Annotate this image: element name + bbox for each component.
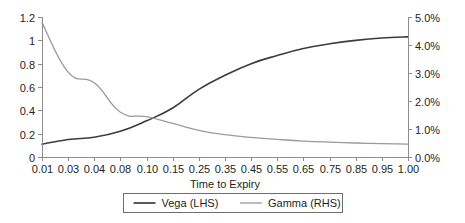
right-axis-tick-label: 0.0%	[415, 152, 440, 164]
legend-label: Gamma (RHS)	[268, 197, 341, 209]
x-axis-tick-label: 0.95	[372, 163, 393, 175]
x-axis-tick-label: 0.85	[346, 163, 367, 175]
x-axis-tick-label: 0.15	[163, 163, 184, 175]
right-axis-tick-labels: 0.0%1.0%2.0%3.0%4.0%5.0%	[415, 12, 440, 164]
x-axis-title: Time to Expiry	[190, 178, 260, 190]
right-axis-tick-label: 5.0%	[415, 12, 440, 24]
legend-label: Vega (LHS)	[162, 197, 219, 209]
right-axis-tick-label: 4.0%	[415, 40, 440, 52]
x-axis-tick-label: 0.65	[293, 163, 314, 175]
x-axis-tick-label: 0.03	[58, 163, 79, 175]
right-axis-tick-label: 2.0%	[415, 96, 440, 108]
series-line-vega	[42, 37, 408, 144]
line-chart: 00.20.40.60.811.2 0.0%1.0%2.0%3.0%4.0%5.…	[0, 0, 465, 223]
x-axis-tick-label: 0.45	[241, 163, 262, 175]
x-axis-tick-label: 0.35	[215, 163, 236, 175]
left-axis-ticks	[38, 18, 42, 158]
left-axis-tick-label: 1.2	[20, 12, 35, 24]
x-axis-tick-label: 0.25	[189, 163, 210, 175]
x-axis-tick-label: 0.75	[320, 163, 341, 175]
right-axis-tick-label: 1.0%	[415, 124, 440, 136]
x-axis-tick-label: 0.08	[110, 163, 131, 175]
chart-figure: 00.20.40.60.811.2 0.0%1.0%2.0%3.0%4.0%5.…	[0, 0, 465, 223]
left-axis-tick-label: 0.6	[20, 82, 35, 94]
left-axis-tick-label: 0.4	[20, 105, 35, 117]
x-axis-tick-label: 0.01	[32, 163, 53, 175]
x-axis-tick-label: 0.04	[84, 163, 105, 175]
left-axis-tick-label: 0.2	[20, 129, 35, 141]
left-axis-tick-labels: 00.20.40.60.811.2	[20, 12, 35, 164]
left-axis-tick-label: 0	[29, 152, 35, 164]
chart-legend: Vega (LHS)Gamma (RHS)	[124, 194, 343, 213]
x-axis-title-text: Time to Expiry	[190, 178, 260, 190]
series-lines	[42, 23, 408, 145]
left-axis-tick-label: 1	[29, 35, 35, 47]
x-axis-tick-label: 0.55	[267, 163, 288, 175]
right-axis-tick-label: 3.0%	[415, 68, 440, 80]
x-axis-tick-label: 0.10	[137, 163, 158, 175]
x-axis-tick-labels: 0.010.030.040.080.100.150.250.350.450.55…	[32, 163, 419, 175]
x-axis-tick-label: 1.00	[398, 163, 419, 175]
left-axis-tick-label: 0.8	[20, 59, 35, 71]
